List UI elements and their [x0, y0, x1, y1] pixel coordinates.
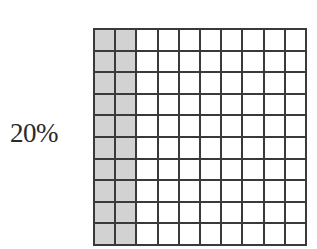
shaded-cell	[95, 30, 116, 52]
empty-cell	[159, 95, 180, 117]
empty-cell	[159, 203, 180, 225]
empty-cell	[243, 203, 264, 225]
shaded-cell	[116, 73, 137, 95]
empty-cell	[180, 52, 201, 74]
empty-cell	[265, 95, 286, 117]
shaded-cell	[116, 138, 137, 160]
empty-cell	[201, 224, 222, 246]
empty-cell	[137, 203, 158, 225]
empty-cell	[243, 52, 264, 74]
empty-cell	[137, 30, 158, 52]
empty-cell	[286, 116, 307, 138]
empty-cell	[243, 30, 264, 52]
shaded-cell	[95, 160, 116, 182]
empty-cell	[265, 138, 286, 160]
shaded-cell	[116, 30, 137, 52]
empty-cell	[180, 30, 201, 52]
empty-cell	[159, 138, 180, 160]
empty-cell	[159, 224, 180, 246]
empty-cell	[265, 160, 286, 182]
empty-cell	[243, 224, 264, 246]
empty-cell	[265, 73, 286, 95]
empty-cell	[201, 52, 222, 74]
shaded-cell	[95, 224, 116, 246]
shaded-cell	[95, 95, 116, 117]
shaded-cell	[116, 181, 137, 203]
empty-cell	[243, 160, 264, 182]
empty-cell	[265, 52, 286, 74]
empty-cell	[180, 116, 201, 138]
empty-cell	[222, 224, 243, 246]
empty-cell	[201, 30, 222, 52]
empty-cell	[265, 116, 286, 138]
shaded-cell	[95, 138, 116, 160]
shaded-cell	[95, 203, 116, 225]
empty-cell	[222, 138, 243, 160]
shaded-cell	[116, 160, 137, 182]
empty-cell	[243, 116, 264, 138]
empty-cell	[137, 224, 158, 246]
empty-cell	[265, 181, 286, 203]
empty-cell	[286, 73, 307, 95]
empty-cell	[159, 73, 180, 95]
empty-cell	[137, 73, 158, 95]
empty-cell	[137, 138, 158, 160]
empty-cell	[159, 30, 180, 52]
empty-cell	[222, 116, 243, 138]
empty-cell	[286, 224, 307, 246]
empty-cell	[137, 181, 158, 203]
empty-cell	[201, 203, 222, 225]
empty-cell	[222, 203, 243, 225]
shaded-cell	[95, 116, 116, 138]
empty-cell	[286, 138, 307, 160]
shaded-cell	[95, 52, 116, 74]
empty-cell	[201, 95, 222, 117]
empty-cell	[201, 73, 222, 95]
empty-cell	[286, 52, 307, 74]
empty-cell	[286, 30, 307, 52]
empty-cell	[180, 160, 201, 182]
shaded-cell	[116, 116, 137, 138]
empty-cell	[265, 203, 286, 225]
empty-cell	[222, 73, 243, 95]
empty-cell	[180, 181, 201, 203]
empty-cell	[201, 138, 222, 160]
shaded-cell	[116, 224, 137, 246]
empty-cell	[286, 181, 307, 203]
empty-cell	[137, 95, 158, 117]
shaded-cell	[116, 52, 137, 74]
empty-cell	[180, 224, 201, 246]
empty-cell	[201, 181, 222, 203]
shaded-cell	[116, 95, 137, 117]
empty-cell	[222, 181, 243, 203]
empty-cell	[222, 30, 243, 52]
empty-cell	[180, 138, 201, 160]
percentage-label: 20%	[10, 118, 58, 149]
empty-cell	[286, 203, 307, 225]
empty-cell	[180, 203, 201, 225]
empty-cell	[286, 160, 307, 182]
empty-cell	[180, 73, 201, 95]
empty-cell	[243, 95, 264, 117]
empty-cell	[265, 30, 286, 52]
empty-cell	[243, 73, 264, 95]
shaded-cell	[95, 73, 116, 95]
empty-cell	[222, 52, 243, 74]
shaded-cell	[95, 181, 116, 203]
empty-cell	[137, 52, 158, 74]
hundred-grid	[93, 28, 307, 246]
empty-cell	[159, 160, 180, 182]
empty-cell	[137, 160, 158, 182]
empty-cell	[222, 95, 243, 117]
empty-cell	[159, 116, 180, 138]
empty-cell	[159, 52, 180, 74]
empty-cell	[159, 181, 180, 203]
empty-cell	[222, 160, 243, 182]
empty-cell	[201, 116, 222, 138]
empty-cell	[243, 181, 264, 203]
empty-cell	[137, 116, 158, 138]
empty-cell	[243, 138, 264, 160]
empty-cell	[201, 160, 222, 182]
empty-cell	[265, 224, 286, 246]
empty-cell	[286, 95, 307, 117]
